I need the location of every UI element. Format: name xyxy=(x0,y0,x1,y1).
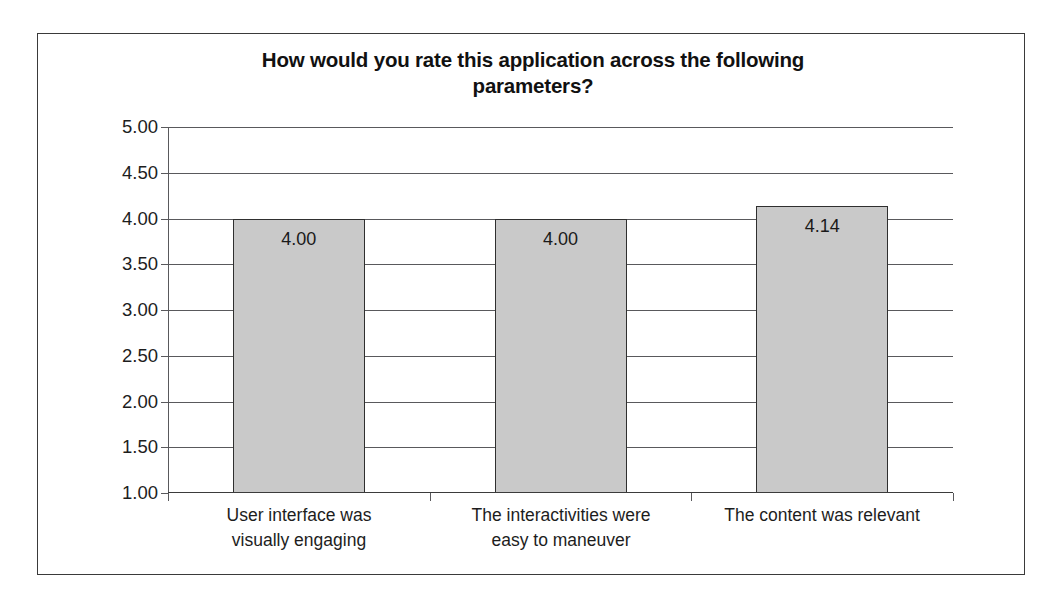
y-tick-label-3-00: 3.00 xyxy=(88,301,158,319)
chart-title-line-1: How would you rate this application acro… xyxy=(262,48,804,71)
x-label-interactivities: The interactivities were easy to maneuve… xyxy=(430,503,692,553)
x-label-line-2: visually engaging xyxy=(232,530,366,550)
x-label-line-1: The interactivities were xyxy=(472,505,651,525)
y-tick-mark-2-00 xyxy=(161,402,168,403)
x-divider-2 xyxy=(691,493,692,501)
y-tick-label-1-00: 1.00 xyxy=(88,484,158,502)
bar-interactivities[interactable]: 4.00 xyxy=(495,219,627,494)
y-tick-label-5-00: 5.00 xyxy=(88,118,158,136)
y-tick-label-3-50: 3.50 xyxy=(88,255,158,273)
x-label-line-2: easy to maneuver xyxy=(491,530,630,550)
y-tick-label-4-50: 4.50 xyxy=(88,164,158,182)
y-tick-mark-4-50 xyxy=(161,173,168,174)
y-tick-label-1-50: 1.50 xyxy=(88,438,158,456)
x-label-line-1: The content was relevant xyxy=(724,505,920,525)
bars-layer: 4.00 4.00 4.14 xyxy=(168,127,953,493)
chart-title-line-2: parameters? xyxy=(473,74,594,97)
y-tick-mark-1-50 xyxy=(161,447,168,448)
y-tick-mark-4-00 xyxy=(161,219,168,220)
x-divider-1 xyxy=(430,493,431,501)
bar-value-label: 4.00 xyxy=(496,229,626,250)
x-label-user-interface: User interface was visually engaging xyxy=(168,503,430,553)
x-label-content-relevant: The content was relevant xyxy=(691,503,953,528)
y-tick-label-2-00: 2.00 xyxy=(88,393,158,411)
chart-frame: How would you rate this application acro… xyxy=(37,33,1025,575)
y-tick-mark-3-50 xyxy=(161,264,168,265)
x-axis-line xyxy=(168,492,953,493)
x-divider-0 xyxy=(168,493,169,501)
y-tick-label-2-50: 2.50 xyxy=(88,347,158,365)
plot-area: 5.00 4.50 4.00 3.50 3.00 2.50 2.00 1.50 … xyxy=(168,127,953,493)
y-axis-tick-labels: 5.00 4.50 4.00 3.50 3.00 2.50 2.00 1.50 … xyxy=(82,127,158,493)
x-axis-category-labels: User interface was visually engaging The… xyxy=(168,501,953,563)
y-tick-mark-3-00 xyxy=(161,310,168,311)
y-tick-label-4-00: 4.00 xyxy=(88,210,158,228)
y-tick-mark-5-00 xyxy=(161,127,168,128)
bar-value-label: 4.00 xyxy=(234,229,364,250)
x-divider-3 xyxy=(953,493,954,501)
bar-user-interface[interactable]: 4.00 xyxy=(233,219,365,494)
chart-title: How would you rate this application acro… xyxy=(128,47,938,99)
bar-content-relevant[interactable]: 4.14 xyxy=(756,206,888,493)
x-label-line-1: User interface was xyxy=(227,505,372,525)
y-tick-mark-1-00 xyxy=(161,493,168,494)
bar-value-label: 4.14 xyxy=(757,216,887,237)
y-tick-mark-2-50 xyxy=(161,356,168,357)
